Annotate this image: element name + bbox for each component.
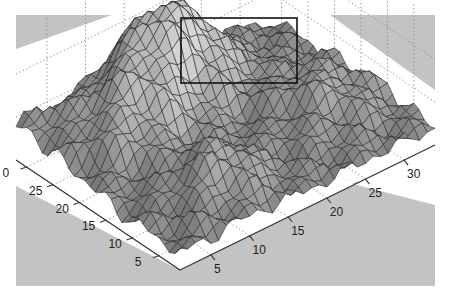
surface-plot: 510152025300252015105 <box>0 0 449 296</box>
x-tick-label: 10 <box>253 243 267 257</box>
x-tick-label: 25 <box>368 186 382 200</box>
x-tick-label: 20 <box>330 205 344 219</box>
y-tick-label: 10 <box>108 237 122 251</box>
y-tick-label: 20 <box>55 202 69 216</box>
x-tick-label: 5 <box>214 262 221 276</box>
y-tick-label: 25 <box>29 184 43 198</box>
y-tick-label: 5 <box>135 255 142 269</box>
y-tick-label: 15 <box>82 219 96 233</box>
y-tick-label: 0 <box>3 166 10 180</box>
x-tick-label: 15 <box>291 224 305 238</box>
x-tick-label: 30 <box>407 167 421 181</box>
